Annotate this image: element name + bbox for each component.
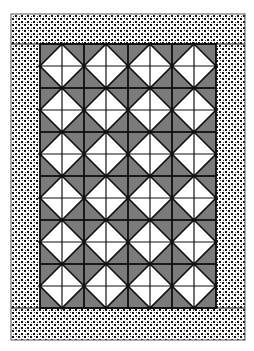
seam-dot: [60, 218, 64, 222]
seam-dot: [60, 130, 64, 134]
seam-dot: [192, 218, 196, 222]
seam-dot: [148, 218, 152, 222]
seam-dot: [192, 86, 196, 90]
seam-dot: [170, 284, 174, 288]
seam-dot: [148, 86, 152, 90]
seam-dot: [60, 86, 64, 90]
seam-dot: [104, 262, 108, 266]
quilt-diagram: [0, 0, 254, 351]
seam-dot: [82, 196, 86, 200]
seam-dot: [170, 64, 174, 68]
seam-dot: [170, 240, 174, 244]
seam-dot: [170, 152, 174, 156]
seam-dot: [82, 108, 86, 112]
seam-dot: [104, 218, 108, 222]
seam-dot: [60, 262, 64, 266]
seam-dot: [126, 284, 130, 288]
seam-dot: [104, 174, 108, 178]
seam-dot: [126, 64, 130, 68]
seam-dot: [170, 108, 174, 112]
seam-dot: [82, 240, 86, 244]
seam-dot: [104, 86, 108, 90]
seam-dot: [82, 152, 86, 156]
seam-dot: [60, 174, 64, 178]
seam-dot: [170, 196, 174, 200]
quilt-svg: [0, 0, 254, 351]
seam-dot: [148, 130, 152, 134]
seam-dot: [126, 152, 130, 156]
seam-dot: [192, 262, 196, 266]
seam-dot: [192, 130, 196, 134]
seam-dot: [126, 240, 130, 244]
seam-dot: [126, 196, 130, 200]
seam-dot: [82, 64, 86, 68]
seam-dot: [104, 130, 108, 134]
seam-dot: [148, 262, 152, 266]
seam-dot: [192, 174, 196, 178]
seam-dot: [148, 174, 152, 178]
seam-dot: [82, 284, 86, 288]
quilt-center-panel: [40, 44, 216, 308]
seam-dot: [126, 108, 130, 112]
